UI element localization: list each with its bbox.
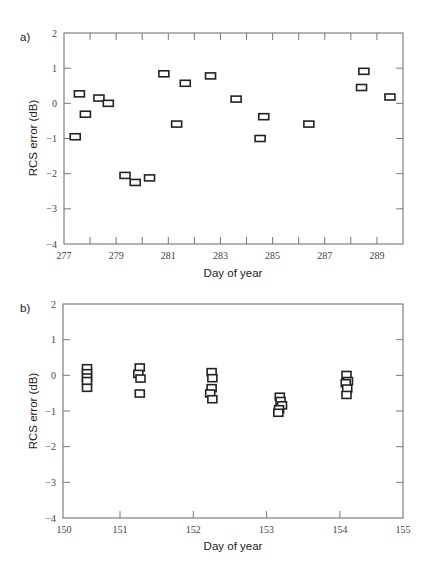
y-tick-label: −1 [45, 406, 56, 417]
x-tick-label: 281 [161, 250, 176, 261]
data-point-marker [208, 396, 217, 403]
x-tick-label: 285 [265, 250, 280, 261]
x-tick-label: 154 [332, 524, 347, 535]
y-tick-label: 0 [51, 370, 56, 381]
y-tick-label: −2 [46, 168, 57, 179]
figure: a) 210−1−2−3−4277279281283285287289 Day … [0, 0, 423, 570]
data-point-marker [74, 91, 84, 97]
x-tick-label: 150 [57, 524, 72, 535]
y-tick-label: 1 [52, 63, 57, 74]
data-point-marker [274, 409, 283, 416]
axis-ticks-a: 210−1−2−3−4277279281283285287289 [46, 28, 403, 262]
data-point-marker [385, 94, 395, 100]
panel-label-a: a) [20, 31, 30, 43]
x-tick-label: 151 [113, 524, 128, 535]
y-tick-label: −2 [45, 441, 56, 452]
data-point-marker [357, 85, 367, 91]
data-point-marker [255, 136, 265, 142]
data-point-marker [206, 73, 216, 79]
data-point-marker [145, 175, 155, 181]
y-tick-label: −1 [46, 133, 57, 144]
y-axis-title-b: RCS error (dB) [27, 372, 39, 449]
x-tick-label: 279 [109, 250, 124, 261]
y-tick-label: −4 [46, 239, 57, 250]
data-points-b [83, 364, 353, 416]
data-point-marker [83, 378, 92, 385]
data-point-marker [130, 179, 140, 185]
data-point-marker [208, 375, 217, 382]
data-point-marker [136, 375, 145, 382]
chart-panel-b: b) 210−1−2−3−4150151152153154155 Day of … [20, 299, 411, 553]
chart-panel-a: a) 210−1−2−3−4277279281283285287289 Day … [20, 28, 403, 280]
data-point-marker [359, 68, 369, 74]
data-point-marker [83, 384, 92, 391]
x-tick-label: 287 [317, 250, 332, 261]
x-tick-label: 153 [259, 524, 274, 535]
y-tick-label: 0 [52, 98, 57, 109]
plot-frame-a [64, 33, 403, 244]
data-point-marker [180, 80, 190, 86]
data-point-marker [135, 390, 144, 397]
y-tick-label: 2 [51, 299, 56, 310]
data-point-marker [259, 114, 269, 120]
data-point-marker [94, 95, 104, 101]
y-tick-label: 1 [51, 334, 56, 345]
x-tick-label: 289 [369, 250, 384, 261]
data-point-marker [80, 111, 90, 117]
x-tick-label: 277 [57, 250, 72, 261]
y-axis-title-a: RCS error (dB) [27, 99, 39, 176]
x-tick-label: 283 [213, 250, 228, 261]
x-axis-title-b: Day of year [204, 540, 263, 552]
data-points-a [70, 68, 395, 185]
data-point-marker [342, 391, 351, 398]
x-tick-label: 155 [396, 524, 411, 535]
data-point-marker [103, 100, 113, 106]
data-point-marker [231, 96, 241, 102]
panel-label-b: b) [20, 302, 30, 314]
x-tick-label: 152 [186, 524, 201, 535]
y-tick-label: −4 [45, 513, 56, 524]
data-point-marker [172, 121, 182, 127]
data-point-marker [304, 121, 314, 127]
plot-frame-b [63, 304, 403, 518]
y-tick-label: −3 [46, 203, 57, 214]
data-point-marker [70, 134, 80, 140]
y-tick-label: −3 [45, 477, 56, 488]
y-tick-label: 2 [52, 28, 57, 39]
data-point-marker [159, 71, 169, 77]
axis-ticks-b: 210−1−2−3−4150151152153154155 [45, 299, 410, 536]
data-point-marker [120, 172, 130, 178]
x-axis-title-a: Day of year [204, 267, 263, 279]
